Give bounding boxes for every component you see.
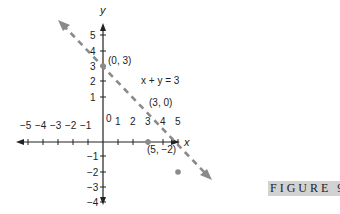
line-upper-arrow-icon [58, 20, 70, 31]
x-tick-label: −2 [65, 120, 77, 131]
y-axis-down-arrow-icon [100, 197, 106, 205]
y-tick-label: 5 [90, 30, 96, 41]
point-label-0-3: (0, 3) [108, 55, 131, 66]
x-tick-label: 2 [130, 116, 136, 127]
x-tick-label: 3 [145, 116, 151, 127]
y-axis-up-arrow-icon [100, 23, 106, 31]
point-5-neg2 [175, 169, 181, 175]
y-tick-label: 1 [90, 92, 96, 103]
equation-label: x + y = 3 [141, 75, 180, 86]
x-axis-left-arrow-icon [16, 139, 24, 145]
y-tick-label: −4 [87, 197, 99, 208]
x-axis-label: x [183, 136, 190, 148]
x-tick-label: −5 [20, 120, 32, 131]
point-label-3-0: (3, 0) [149, 97, 172, 108]
y-tick-label: 4 [90, 46, 96, 57]
x-tick-label: 4 [160, 116, 166, 127]
point-label-5-neg2: (5, −2) [147, 144, 176, 155]
line-x-plus-y-equals-3 [63, 25, 206, 174]
x-tick-label: −3 [50, 120, 62, 131]
origin-label: 0 [106, 113, 112, 124]
x-tick-label: 5 [175, 116, 181, 127]
x-tick-label: −1 [80, 120, 92, 131]
y-tick-label: −1 [87, 151, 99, 162]
y-axis-label: y [99, 4, 107, 16]
y-tick-label: −2 [87, 167, 99, 178]
y-tick-label: 2 [90, 76, 96, 87]
x-tick-label: 1 [115, 116, 121, 127]
y-tick-label: −3 [87, 182, 99, 193]
x-tick-label: −4 [35, 120, 47, 131]
figure-caption: FIGURE 9.24 [268, 181, 340, 196]
point-0-3 [100, 63, 106, 69]
y-tick-label: 3 [90, 61, 96, 72]
